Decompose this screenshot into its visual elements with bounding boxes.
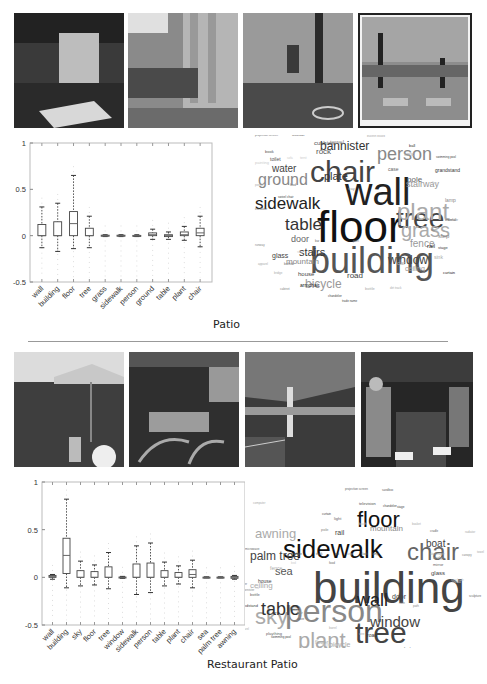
cloud-word: clock: [361, 553, 368, 556]
scene-photo: [14, 13, 124, 128]
x-tick-label: table: [154, 284, 172, 302]
cloud-word: book: [265, 150, 274, 154]
cloud-word: sand: [404, 152, 415, 157]
cloud-word: sink: [434, 255, 443, 260]
boxplot-chart: -0.500.51wallbuildingfloortreegrasssidew…: [0, 135, 240, 330]
section-divider: [28, 341, 448, 342]
cloud-word: sky: [297, 250, 303, 254]
cloud-word: canopy: [462, 554, 472, 557]
box-plant: plant: [164, 482, 183, 645]
cloud-word: awning: [255, 527, 296, 540]
cloud-word: strip: [347, 553, 353, 556]
cloud-word: curtain: [322, 513, 331, 516]
section-title: Patio: [213, 318, 240, 331]
iqr-box: [161, 571, 168, 578]
scene-photo: [361, 352, 473, 467]
cloud-word: television: [359, 502, 376, 506]
cloud-word: booth: [359, 523, 367, 526]
cloud-word: wire: [359, 633, 365, 636]
x-tick-label: floor: [60, 284, 77, 301]
cloud-word: rail: [427, 243, 435, 249]
cloud-word: toilet: [270, 157, 281, 162]
cloud-word: runway: [255, 244, 265, 247]
iqr-box: [91, 572, 98, 578]
iqr-box: [77, 571, 84, 578]
box-floor: floor: [60, 143, 77, 301]
cloud-word: lamp: [445, 198, 456, 203]
cloud-word: curtain: [443, 271, 455, 275]
section-title: Restaurant Patio: [207, 658, 298, 671]
cloud-word: light: [334, 517, 341, 521]
box-table: table: [154, 143, 172, 302]
y-tick-label: 0: [22, 232, 26, 241]
cloud-word: ball: [409, 144, 415, 148]
cloud-word: rock: [316, 148, 331, 156]
box-sea: sea: [195, 482, 211, 642]
plot-frame: [42, 482, 245, 625]
box-wall: wall: [29, 143, 46, 300]
cloud-word: sandbox: [382, 489, 393, 492]
cloud-word: swimming pool: [436, 156, 456, 159]
iqr-box: [133, 564, 140, 577]
cloud-word: cabinet: [280, 288, 290, 291]
cloud-word: towel: [477, 551, 484, 554]
word-cloud: buildingpersontreesidewalkchairfloorplan…: [245, 478, 487, 648]
cloud-word: towel: [330, 139, 344, 145]
cloud-word: glass: [431, 570, 445, 576]
cloud-word: sculpture: [469, 595, 481, 598]
cloud-word: pole: [321, 528, 329, 532]
cloud-word: bridge: [433, 556, 444, 560]
cloud-word: basket: [412, 523, 421, 526]
cloud-word: ground: [258, 172, 308, 188]
cloud-word: dirt track: [390, 287, 402, 290]
cloud-word: projection screen: [345, 488, 368, 491]
cloud-word: grandstand: [435, 168, 460, 173]
cloud-word: door: [392, 593, 406, 600]
cloud-word: rail: [335, 529, 344, 536]
box-floor: floor: [81, 482, 98, 644]
cloud-word: chandelier: [328, 295, 342, 298]
y-tick-label: -0.5: [25, 621, 38, 630]
scene-photo: [243, 13, 353, 128]
cloud-word: rake: [399, 602, 405, 605]
x-tick-label: floor: [81, 627, 98, 644]
cloud-word: pole: [407, 176, 422, 184]
x-tick-label: chair: [186, 284, 204, 302]
cloud-word: path: [353, 240, 359, 243]
y-tick-label: 0.5: [16, 185, 26, 194]
cloud-word: chandelier: [383, 505, 397, 508]
cloud-word: stage: [438, 246, 448, 250]
cloud-word: tray: [348, 187, 355, 191]
cloud-word: apparel: [245, 628, 249, 631]
cloud-word: escalator: [255, 208, 267, 211]
cloud-word: sunshade: [451, 579, 464, 582]
iqr-box: [147, 563, 154, 577]
box-sky: sky: [70, 482, 84, 641]
cloud-word: car: [397, 260, 405, 266]
box-plant: plant: [170, 143, 189, 302]
cloud-word: road: [347, 272, 363, 280]
cloud-word: bed: [291, 562, 296, 565]
cloud-word: skyscraper: [430, 553, 445, 556]
word-cloud: floorbuildingwallchairtreeplantpersonsid…: [245, 135, 487, 315]
cloud-word: grandstand: [245, 604, 258, 608]
cloud-word: pier: [245, 583, 247, 586]
scene-photo: [129, 352, 239, 467]
y-tick-label: 0: [34, 573, 38, 582]
y-tick-label: 1: [22, 139, 26, 148]
cloud-word: trade name: [342, 300, 357, 303]
cloud-word: hat: [255, 587, 259, 590]
iqr-box: [85, 228, 93, 235]
cloud-word: bulletin board: [367, 135, 385, 138]
cloud-word: apparel: [258, 263, 268, 266]
cloud-word: plate: [324, 171, 348, 182]
cloud-word: fence: [270, 566, 282, 571]
cloud-word: shelf: [431, 229, 437, 232]
cloud-word: computer: [253, 502, 266, 505]
scene-photo: [128, 13, 238, 128]
iqr-box: [196, 228, 204, 235]
cloud-word: poster: [255, 184, 263, 187]
y-tick-label: -0.5: [13, 278, 26, 287]
cloud-word: ceiling: [405, 265, 425, 272]
scene-photo: [245, 352, 355, 467]
